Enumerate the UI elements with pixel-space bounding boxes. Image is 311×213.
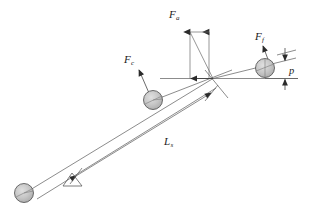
force-vertical-subscript: a [176,14,180,22]
force-left-symbol: F [124,53,131,65]
force-left-subscript: c [131,59,134,67]
beam-lower-edge [37,88,216,199]
diagram-canvas [0,0,311,213]
force-vertical-label: Fa [169,9,179,20]
force-vertical-symbol: F [169,8,176,20]
vertical-force-arrows [190,32,213,79]
length-subscript: s [170,141,173,149]
gap-symbol: p [289,65,294,76]
pivot-triangle-support [63,173,82,186]
junction-tick [205,70,228,98]
force-right-symbol: F [255,30,262,42]
sphere-upper-right [256,59,275,78]
sphere-lower-left [15,184,34,203]
force-diagram: Fa Fc Ff Ls p [0,0,311,213]
force-right-label: Ff [255,31,264,42]
force-left-label: Fc [124,54,134,65]
sphere-middle [144,91,163,110]
tangent-line [152,70,232,101]
beam-upper-edge [30,58,296,190]
length-label: Ls [164,136,173,147]
force-right-subscript: f [262,36,264,44]
gap-label: p [289,66,294,77]
